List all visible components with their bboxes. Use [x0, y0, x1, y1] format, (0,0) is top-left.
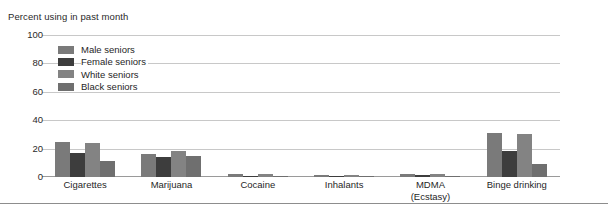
bar: [156, 157, 171, 177]
bar: [329, 176, 344, 177]
legend-swatch-icon: [58, 58, 74, 66]
bar: [314, 175, 329, 177]
bar-group: [387, 35, 473, 177]
x-axis-label-line1: Cocaine: [240, 179, 275, 190]
bar: [359, 176, 374, 177]
bar: [228, 174, 243, 177]
x-axis-label: Cocaine: [215, 179, 301, 213]
bar-group: [301, 35, 387, 177]
legend-item-2[interactable]: White seniors: [58, 70, 148, 79]
bar: [70, 153, 85, 177]
x-axis-label-line1: Inhalants: [325, 179, 364, 190]
legend-label: Female seniors: [81, 57, 148, 66]
legend-label: Black seniors: [81, 82, 140, 91]
y-tick-label-80: 80: [13, 57, 43, 68]
x-axis-label: Marijuana: [128, 179, 214, 213]
legend-swatch-icon: [58, 70, 74, 78]
y-axis-title: Percent using in past month: [8, 11, 128, 22]
legend-item-1[interactable]: Female seniors: [58, 57, 148, 66]
bar: [141, 154, 156, 177]
bar: [186, 156, 201, 177]
bar: [171, 151, 186, 177]
bar-chart: Percent using in past month 020406080100…: [0, 0, 608, 216]
legend-item-0[interactable]: Male seniors: [58, 45, 148, 54]
legend-item-3[interactable]: Black seniors: [58, 82, 148, 91]
bar: [273, 176, 288, 177]
x-axis-label: Cigarettes: [42, 179, 128, 213]
y-tick-label-20: 20: [13, 143, 43, 154]
x-axis-label-line1: MDMA: [416, 179, 445, 190]
x-axis-label-line1: Marijuana: [151, 179, 193, 190]
bar: [445, 176, 460, 177]
y-tick-label-60: 60: [13, 86, 43, 97]
legend-swatch-icon: [58, 83, 74, 91]
x-axis-label: MDMA(Ecstasy): [387, 179, 473, 213]
bar: [400, 174, 415, 177]
x-axis-label-line1: Binge drinking: [487, 179, 547, 190]
bar: [85, 143, 100, 177]
legend-label: White seniors: [81, 70, 141, 79]
bar: [100, 161, 115, 177]
bottom-rule: [0, 203, 608, 204]
bar: [487, 133, 502, 177]
y-tick-label-40: 40: [13, 114, 43, 125]
x-axis-label: Binge drinking: [474, 179, 560, 213]
bar: [258, 174, 273, 177]
x-axis-label: Inhalants: [301, 179, 387, 213]
bar: [430, 174, 445, 177]
bar: [532, 164, 547, 177]
bar: [55, 142, 70, 178]
chart-legend: Male seniorsFemale seniorsWhite seniorsB…: [58, 45, 148, 91]
bar: [415, 175, 430, 177]
bar-group: [215, 35, 301, 177]
x-axis-label-line2: (Ecstasy): [387, 191, 473, 203]
bar: [344, 175, 359, 177]
bar: [243, 176, 258, 177]
legend-label: Male seniors: [81, 45, 137, 54]
x-axis-labels: CigarettesMarijuanaCocaineInhalantsMDMA(…: [42, 179, 560, 213]
x-axis-label-line1: Cigarettes: [64, 179, 107, 190]
y-tick-label-100: 100: [13, 29, 43, 40]
legend-swatch-icon: [58, 46, 74, 54]
bar: [502, 151, 517, 177]
bar-group: [474, 35, 560, 177]
y-tick-label-0: 0: [13, 171, 43, 182]
bar: [517, 134, 532, 177]
